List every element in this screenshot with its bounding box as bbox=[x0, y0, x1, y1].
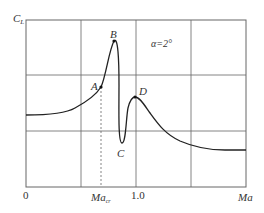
x-axis-label: Ma bbox=[237, 191, 253, 203]
grid bbox=[26, 20, 246, 187]
point-a-marker bbox=[99, 85, 102, 88]
x-tick-one: 1.0 bbox=[131, 189, 145, 201]
x-tick-ma-cr: Macr bbox=[90, 191, 111, 204]
y-axis-label: CL bbox=[13, 12, 24, 26]
point-d-marker bbox=[133, 95, 136, 98]
point-c-label: C bbox=[117, 147, 125, 159]
point-a-label: A bbox=[90, 80, 98, 92]
point-b-label: B bbox=[110, 28, 117, 40]
cl-vs-mach-chart: A B C D α=2° CL 0 Macr 1.0 Ma bbox=[0, 0, 264, 213]
point-d-label: D bbox=[138, 85, 147, 97]
alpha-annotation: α=2° bbox=[151, 38, 172, 49]
x-tick-origin: 0 bbox=[23, 189, 29, 201]
